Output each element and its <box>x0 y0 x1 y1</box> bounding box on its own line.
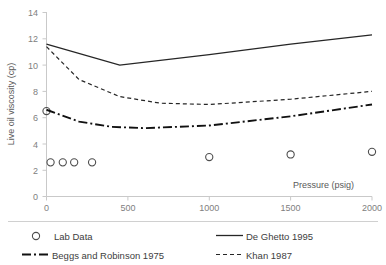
y-axis-title: Live oil viscosity (cp) <box>6 63 16 146</box>
x-tick-label-1000: 1000 <box>199 203 219 213</box>
data-point-marker <box>287 151 294 158</box>
y-axis: 14 12 10 8 6 4 2 0 Live oil viscosity (c… <box>6 8 47 202</box>
legend-label-beggs-and-robinson-1975: Beggs and Robinson 1975 <box>52 250 164 261</box>
series-line <box>47 35 373 65</box>
legend-label-de-ghetto-1995: De Ghetto 1995 <box>246 231 313 242</box>
data-point-marker <box>88 159 95 166</box>
x-tick-label-2000: 2000 <box>362 203 382 213</box>
chart-legend: Lab Data De Ghetto 1995 Beggs and Robins… <box>8 222 378 261</box>
x-tick-label-1500: 1500 <box>281 203 301 213</box>
series-de-ghetto-1995 <box>47 35 373 65</box>
data-point-marker <box>206 153 213 160</box>
y-tick-label-12: 12 <box>28 34 38 44</box>
series-khan-1987 <box>47 47 373 105</box>
data-point-marker <box>59 159 66 166</box>
x-axis-title: Pressure (psig) <box>293 180 354 190</box>
y-tick-label-10: 10 <box>28 61 38 71</box>
y-tick-label-2: 2 <box>33 166 38 176</box>
x-tick-label-0: 0 <box>44 203 49 213</box>
y-tick-label-0: 0 <box>33 192 38 202</box>
chart-container: 14 12 10 8 6 4 2 0 Live oil viscosity (c… <box>0 0 386 265</box>
data-point-marker <box>47 159 54 166</box>
legend-item-de-ghetto-1995[interactable]: De Ghetto 1995 <box>216 231 313 242</box>
data-point-marker <box>71 159 78 166</box>
x-axis: 0 500 1000 1500 2000 Pressure (psig) <box>44 180 382 213</box>
series-lab-data <box>43 107 376 165</box>
series-beggs-and-robinson-1975 <box>47 105 373 129</box>
y-tick-label-8: 8 <box>33 87 38 97</box>
y-tick-label-14: 14 <box>28 8 38 18</box>
series-line <box>47 47 373 105</box>
x-tick-label-500: 500 <box>120 203 135 213</box>
series-layer <box>43 35 376 166</box>
legend-item-khan-1987[interactable]: Khan 1987 <box>216 250 292 261</box>
open-circle-icon <box>32 232 39 239</box>
y-tick-label-6: 6 <box>33 113 38 123</box>
data-point-marker <box>368 148 375 155</box>
legend-item-lab-data[interactable]: Lab Data <box>32 231 93 242</box>
series-line <box>47 105 373 129</box>
legend-label-lab-data: Lab Data <box>54 231 93 242</box>
legend-item-beggs-and-robinson-1975[interactable]: Beggs and Robinson 1975 <box>22 250 164 261</box>
legend-label-khan-1987: Khan 1987 <box>246 250 292 261</box>
y-tick-label-4: 4 <box>33 140 38 150</box>
viscosity-vs-pressure-chart: 14 12 10 8 6 4 2 0 Live oil viscosity (c… <box>0 0 386 265</box>
